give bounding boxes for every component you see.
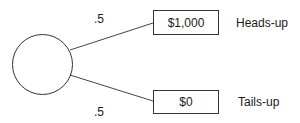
- payoff-heads: $1,000: [168, 16, 205, 30]
- probability-top: .5: [94, 12, 104, 26]
- payoff-tails: $0: [179, 95, 192, 109]
- outcome-heads: Heads-up: [236, 16, 288, 30]
- probability-bottom: .5: [94, 105, 104, 119]
- chance-node: [12, 34, 73, 95]
- payoff-box-tails: $0: [153, 90, 219, 114]
- outcome-tails: Tails-up: [238, 95, 279, 109]
- payoff-box-heads: $1,000: [153, 10, 219, 35]
